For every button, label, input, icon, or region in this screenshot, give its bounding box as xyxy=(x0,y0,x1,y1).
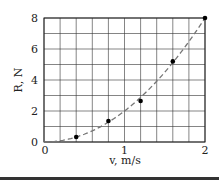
grid xyxy=(44,18,205,142)
data-point xyxy=(203,16,208,21)
data-point xyxy=(171,59,176,64)
y-axis-label: R, N xyxy=(12,67,25,92)
y-tick-label: 2 xyxy=(31,105,38,118)
y-tick-label: 4 xyxy=(31,74,38,87)
data-point xyxy=(138,99,143,104)
data-point xyxy=(106,119,111,124)
x-tick-label: 0 xyxy=(42,144,49,157)
chart: 02468 012 R, N v, m/s xyxy=(0,0,219,181)
x-tick-label: 2 xyxy=(202,144,209,157)
x-axis-label: v, m/s xyxy=(108,154,141,167)
data-point xyxy=(74,135,79,140)
y-tick-label: 0 xyxy=(31,136,38,149)
bottom-divider xyxy=(0,177,219,180)
y-axis-ticks: 02468 xyxy=(31,12,38,149)
y-tick-label: 8 xyxy=(31,12,38,25)
y-tick-label: 6 xyxy=(31,43,38,56)
